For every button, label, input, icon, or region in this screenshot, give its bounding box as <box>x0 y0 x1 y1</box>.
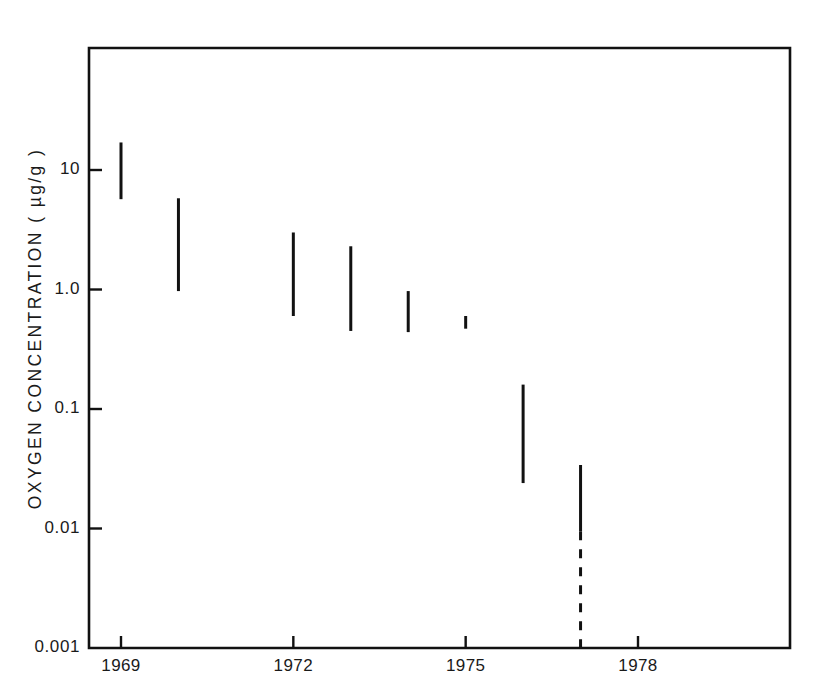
y-tick-label: 0.1 <box>55 398 80 418</box>
plot-frame-box <box>89 48 790 648</box>
x-tick-label: 1969 <box>81 656 161 676</box>
axis-ticks <box>89 170 638 648</box>
x-tick-label: 1975 <box>426 656 506 676</box>
y-tick-label: 0.01 <box>45 518 81 538</box>
plot-area <box>0 0 819 698</box>
plot-frame <box>89 48 790 648</box>
range-bars <box>121 142 581 648</box>
y-tick-label: 1.0 <box>55 279 80 299</box>
y-tick-label: 0.001 <box>34 637 80 657</box>
x-tick-label: 1972 <box>253 656 333 676</box>
x-tick-label: 1978 <box>598 656 678 676</box>
chart-figure: OXYGEN CONCENTRATION ( µg/g ) 101.00.10.… <box>0 0 819 698</box>
y-tick-label: 10 <box>60 159 80 179</box>
